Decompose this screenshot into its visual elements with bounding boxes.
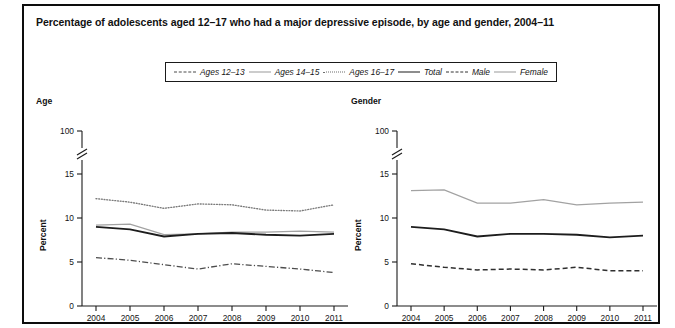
legend-label: Ages 12–13 [200,67,245,77]
figure-footnote [34,318,634,326]
figure-title: Percentage of adolescents aged 12–17 who… [36,16,648,29]
legend-item-ages-14-15: Ages 14–15 [249,67,320,77]
svg-text:0: 0 [69,301,74,311]
legend-line-thin-icon [494,68,516,77]
panel-title-gender: Gender [351,96,381,106]
legend-item-male: Male [446,67,490,77]
series-line [96,258,334,273]
chart-gender: 0510151002004200520062007200820092010201… [357,114,657,322]
series-line [411,227,643,238]
svg-text:10: 10 [380,213,390,223]
legend-label: Total [424,67,442,77]
svg-text:100: 100 [375,126,389,136]
series-line [411,190,643,205]
svg-text:0: 0 [384,301,389,311]
legend-line-solid-icon [398,68,420,77]
legend-label: Ages 16–17 [349,67,394,77]
legend-item-total: Total [398,67,442,77]
svg-text:5: 5 [69,257,74,267]
svg-text:5: 5 [384,257,389,267]
panel-title-age: Age [36,96,52,106]
legend-label: Male [472,67,490,77]
legend-item-female: Female [494,67,548,77]
legend-item-ages-12-13: Ages 12–13 [174,67,245,77]
chart-age: 0510151002004200520062007200820092010201… [42,114,350,322]
svg-text:15: 15 [380,169,390,179]
legend-line-thin-icon [249,68,271,77]
chart-legend: Ages 12–13 Ages 14–15 Ages 16–17 Total M… [165,62,557,82]
svg-text:100: 100 [60,126,74,136]
svg-text:10: 10 [65,213,75,223]
legend-item-ages-16-17: Ages 16–17 [323,67,394,77]
legend-line-dotted-icon [323,68,345,77]
legend-label: Ages 14–15 [275,67,320,77]
svg-text:2011: 2011 [634,313,652,322]
svg-text:15: 15 [65,169,75,179]
series-line [96,199,334,211]
figure-frame: Percentage of adolescents aged 12–17 who… [22,4,660,324]
legend-line-dashed-icon [446,68,468,77]
legend-line-dashdot-icon [174,68,196,77]
series-line [411,264,643,271]
legend-label: Female [520,67,548,77]
